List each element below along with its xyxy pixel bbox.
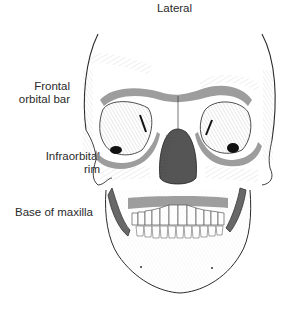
mental-foramen-left: [140, 266, 142, 268]
left-orbit: [100, 102, 152, 155]
right-orbit: [200, 102, 251, 153]
mandible-outline: [106, 190, 251, 293]
skull-illustration: [0, 0, 291, 309]
mental-foramen-right: [211, 267, 213, 269]
